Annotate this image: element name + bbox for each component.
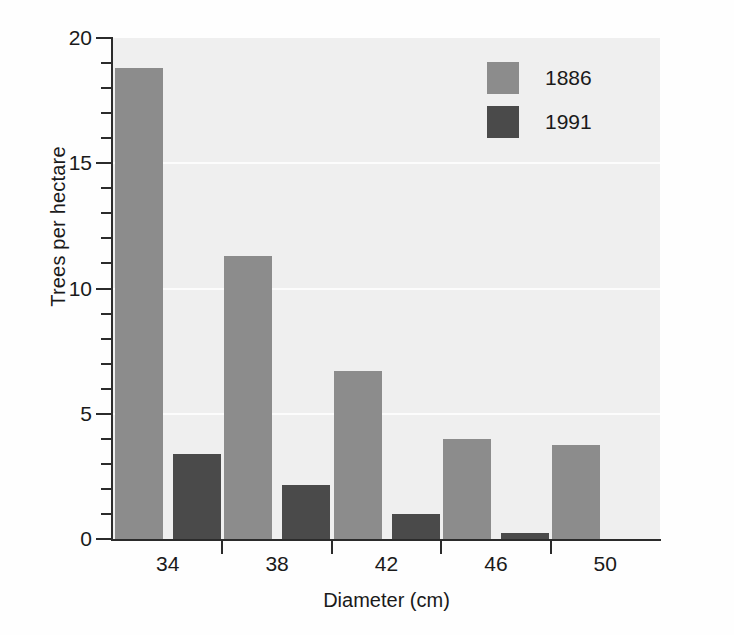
y-tick-label: 0 [46, 528, 92, 549]
y-tick-label: 5 [46, 403, 92, 424]
x-tick-label: 42 [347, 552, 427, 576]
y-minor-tick [101, 137, 112, 139]
y-major-tick [96, 37, 112, 39]
gridline [113, 288, 660, 290]
legend-label: 1886 [545, 66, 592, 90]
y-minor-tick [101, 488, 112, 490]
bar [443, 439, 491, 539]
y-minor-tick [101, 388, 112, 390]
bar [173, 454, 221, 539]
bar-chart-figure: Trees per hectare 05101520 3438424650 Di… [0, 0, 734, 635]
y-major-tick [96, 413, 112, 415]
legend-item: 1886 [487, 56, 592, 100]
legend-item: 1991 [487, 100, 592, 144]
bar [115, 68, 163, 539]
y-minor-tick [101, 237, 112, 239]
y-major-tick [96, 162, 112, 164]
x-tick-label: 46 [456, 552, 536, 576]
y-tick-label: 20 [46, 27, 92, 48]
y-minor-tick [101, 87, 112, 89]
bar [282, 485, 330, 539]
y-minor-tick [101, 212, 112, 214]
legend-swatch [487, 62, 519, 94]
bar [392, 514, 440, 539]
bar [501, 533, 549, 539]
y-minor-tick [101, 112, 112, 114]
bar [224, 256, 272, 539]
x-tick [331, 541, 333, 554]
gridline [113, 162, 660, 164]
bar [552, 445, 600, 539]
x-axis-title: Diameter (cm) [113, 589, 660, 612]
y-tick-label: 10 [46, 278, 92, 299]
y-major-tick [96, 538, 112, 540]
bar [334, 371, 382, 539]
y-minor-tick [101, 363, 112, 365]
y-minor-tick [101, 313, 112, 315]
y-axis-tick-labels: 05101520 [46, 0, 92, 635]
x-tick-label: 38 [237, 552, 317, 576]
legend-swatch [487, 106, 519, 138]
y-minor-tick [101, 62, 112, 64]
gridline [113, 413, 660, 415]
y-minor-tick [101, 187, 112, 189]
legend: 18861991 [487, 56, 592, 144]
y-minor-tick [101, 438, 112, 440]
x-tick [550, 541, 552, 554]
x-tick [221, 541, 223, 554]
y-minor-tick [101, 513, 112, 515]
legend-label: 1991 [545, 110, 592, 134]
x-tick-label: 34 [128, 552, 208, 576]
y-minor-tick [101, 463, 112, 465]
y-major-tick [96, 288, 112, 290]
y-minor-tick [101, 262, 112, 264]
x-tick-label: 50 [565, 552, 645, 576]
x-tick [440, 541, 442, 554]
x-axis-line [111, 539, 661, 541]
y-tick-label: 15 [46, 152, 92, 173]
y-minor-tick [101, 338, 112, 340]
